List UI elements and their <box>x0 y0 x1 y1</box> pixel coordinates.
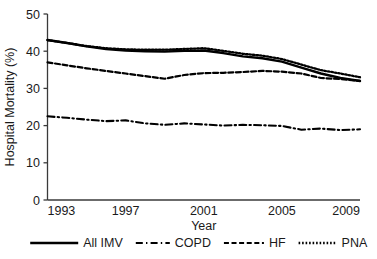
x-axis-title: Year <box>191 219 216 233</box>
y-tick-label-10: 10 <box>26 156 40 170</box>
y-axis-tick-labels: 0 10 20 30 40 50 <box>26 8 40 208</box>
x-axis-tick-labels: 1993 1997 2001 2005 2009 <box>48 204 361 218</box>
x-tick-label-1997: 1997 <box>112 204 140 218</box>
y-tick-label-30: 30 <box>26 82 40 96</box>
y-tick-label-0: 0 <box>33 194 40 208</box>
x-tick-label-2001: 2001 <box>190 204 218 218</box>
legend-label-copd: COPD <box>175 236 211 250</box>
data-series-group <box>48 40 361 130</box>
chart-figure: 0 10 20 30 40 50 1993 1997 2001 2005 200… <box>0 0 377 259</box>
line-chart: 0 10 20 30 40 50 1993 1997 2001 2005 200… <box>0 0 377 259</box>
y-axis-title: Hospital Mortality (%) <box>3 48 17 167</box>
legend-label-all-imv: All IMV <box>83 236 123 250</box>
x-tick-label-1993: 1993 <box>48 204 76 218</box>
legend-label-hf: HF <box>269 236 286 250</box>
x-tick-label-2009: 2009 <box>332 204 360 218</box>
chart-legend: All IMVCOPDHFPNA <box>30 236 368 250</box>
y-tick-label-20: 20 <box>26 119 40 133</box>
legend-label-pna: PNA <box>342 236 368 250</box>
y-tick-label-50: 50 <box>26 8 40 22</box>
series-line-copd <box>48 116 361 130</box>
x-tick-label-2005: 2005 <box>268 204 296 218</box>
y-tick-label-40: 40 <box>26 45 40 59</box>
